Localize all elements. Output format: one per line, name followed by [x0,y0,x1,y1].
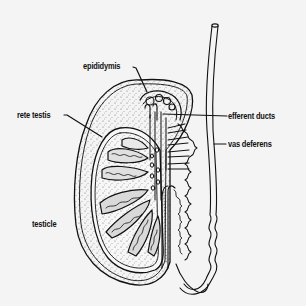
diagram-canvas: epididymis rete testis efferent ducts va… [0,0,306,306]
label-testicle: testicle [32,219,56,229]
vas-deferens-tube [180,24,218,294]
testicle-cross-section-illustration [0,0,306,306]
label-vas-deferens: vas deferens [228,139,272,149]
label-epididymis: epididymis [83,61,120,71]
label-efferent-ducts: efferent ducts [228,111,275,121]
label-rete-testis: rete testis [17,110,50,120]
